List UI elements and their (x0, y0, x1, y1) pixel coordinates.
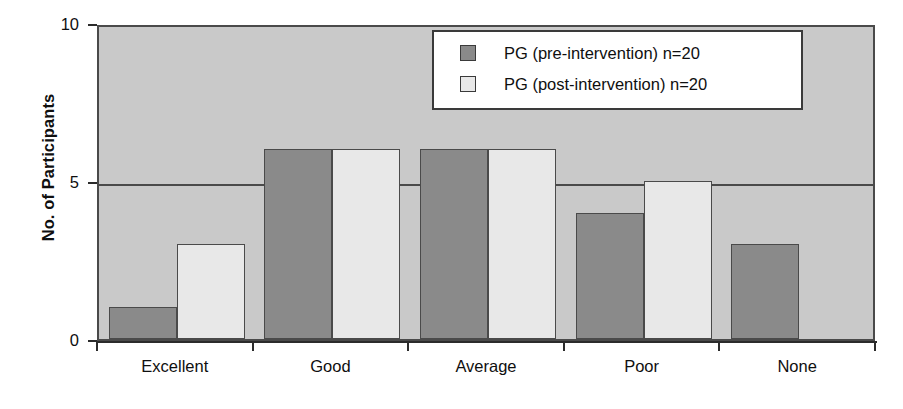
y-tick-mark (88, 182, 97, 184)
x-tick-label-good: Good (253, 357, 409, 376)
bar-chart: No. of Participants 0510 ExcellentGoodAv… (0, 0, 903, 409)
bar-poor-pre (576, 213, 644, 339)
bar-good-pre (264, 149, 332, 339)
x-tick-label-none: None (719, 357, 875, 376)
x-tick-label-excellent: Excellent (97, 357, 253, 376)
y-tick-label: 10 (35, 16, 79, 33)
y-tick-mark (88, 24, 97, 26)
x-tick-label-poor: Poor (564, 357, 720, 376)
x-tick-label-average: Average (408, 357, 564, 376)
bar-none-pre (731, 244, 799, 339)
y-axis-title: No. of Participants (39, 48, 58, 288)
bar-poor-post (644, 181, 712, 339)
legend-swatch-icon-pre (460, 45, 476, 61)
x-tick-mark (407, 341, 409, 351)
x-tick-mark (563, 341, 565, 351)
bar-good-post (332, 149, 400, 339)
legend-item-post: PG (post-intervention) n=20 (460, 76, 707, 93)
x-tick-mark (252, 341, 254, 351)
legend: PG (pre-intervention) n=20 PG (post-inte… (432, 30, 803, 110)
y-tick-label: 0 (35, 332, 79, 349)
y-tick-label: 5 (35, 174, 79, 191)
legend-label-pre: PG (pre-intervention) n=20 (504, 45, 700, 62)
legend-swatch-icon-post (460, 76, 476, 92)
x-axis-line (97, 341, 877, 343)
legend-item-pre: PG (pre-intervention) n=20 (460, 45, 700, 62)
x-tick-mark (718, 341, 720, 351)
bar-excellent-post (177, 244, 245, 339)
bar-excellent-pre (109, 307, 177, 339)
bar-average-post (488, 149, 556, 339)
x-tick-mark (96, 341, 98, 351)
bar-average-pre (420, 149, 488, 339)
x-tick-mark (874, 341, 876, 351)
legend-label-post: PG (post-intervention) n=20 (504, 76, 707, 93)
